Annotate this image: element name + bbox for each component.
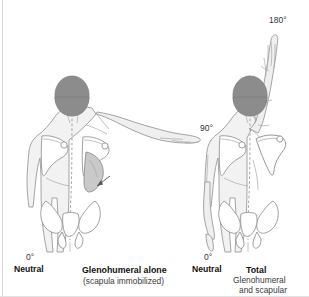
right-panel-start-name: Neutral [192, 265, 222, 275]
right-scapula-right [255, 129, 295, 176]
left-acromion-right [102, 143, 108, 149]
left-panel-caption-title: Glenohumeral alone [82, 265, 167, 275]
left-extended-arm [96, 112, 200, 143]
right-panel-motion-label: 180° [269, 16, 287, 26]
right-acromion-left [239, 142, 245, 148]
right-upper-arm-line [258, 125, 269, 126]
left-sacrum [63, 213, 79, 237]
left-ischium-right [75, 232, 83, 248]
left-panel-motion-label: 90° [200, 124, 213, 134]
left-panel-start-label: 0° [26, 253, 34, 263]
left-axilla-line [86, 125, 107, 134]
left-panel-caption-subtitle: (scapula immobilized) [83, 277, 164, 287]
right-ilium-right [257, 201, 279, 233]
right-figure-group [204, 35, 296, 252]
left-ilium-right [79, 201, 101, 233]
right-panel-caption-subtitle-2: and scapular [239, 286, 287, 296]
right-flank-line [253, 160, 258, 190]
right-sacrum [241, 213, 257, 237]
left-acromion-left [61, 142, 67, 148]
right-panel-start-label: 0° [204, 253, 212, 263]
right-panel-caption-title: Total [246, 265, 266, 275]
left-figure-group [27, 76, 200, 252]
right-ischium-right [253, 232, 261, 248]
anatomy-figure: .skin{fill:#f2f2f2;stroke:#9a9a9a;stroke… [0, 0, 309, 297]
left-panel-start-name: Neutral [14, 265, 44, 275]
figure-artwork: .skin{fill:#f2f2f2;stroke:#9a9a9a;stroke… [0, 0, 309, 297]
right-thumb-line [264, 58, 266, 76]
